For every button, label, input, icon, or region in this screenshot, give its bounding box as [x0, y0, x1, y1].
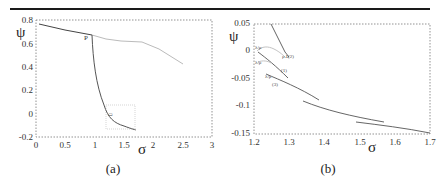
annotation-label: λ/μ	[255, 60, 262, 65]
xtick-a: 0	[34, 140, 39, 150]
steep-branch	[271, 24, 289, 57]
xlabel-a: σ	[138, 141, 146, 157]
lower-branch	[92, 35, 136, 130]
xtick-b: 1.3	[283, 137, 295, 147]
annotation-label: (2)	[288, 54, 294, 59]
ytick-b: 0	[246, 45, 251, 55]
xtick-a: 0.5	[59, 140, 71, 150]
ylabel-a: ψ	[16, 24, 26, 40]
xtick-b: 1.2	[248, 137, 259, 147]
ytick-a: 0.6	[22, 39, 34, 49]
xtick-a: 3	[210, 140, 215, 150]
xtick-a: 1	[93, 140, 98, 150]
xtick-a: 2.5	[177, 140, 189, 150]
xtick-a: 2	[151, 140, 156, 150]
ytick-b: -0.1	[236, 100, 250, 110]
panel-caption-a: (a)	[106, 161, 120, 176]
xlabel-b: σ	[368, 139, 376, 155]
plot-frame-a	[36, 20, 212, 137]
plot-frame-b	[254, 24, 430, 134]
annotation-label: λ/μ	[265, 74, 272, 79]
ytick-b: 0.05	[234, 18, 250, 28]
xtick-b: 1.5	[354, 137, 366, 147]
upper-branch-light	[92, 35, 183, 64]
figure: 0.8 0.6 0.4 0.2 0 -0.2 0 0.5 1 1.5 2 2.5…	[0, 0, 442, 182]
xtick-a: 1.5	[118, 140, 130, 150]
annotation-label: (1)	[281, 68, 287, 73]
long-branch-1	[266, 74, 319, 100]
ytick-a: -0.2	[19, 132, 33, 142]
xtick-b: 1.7	[424, 137, 436, 147]
ytick-a: 0.4	[22, 62, 34, 72]
long-branch-2	[303, 101, 384, 122]
panel-b: 0.05 0 -0.05 -0.1 -0.15 1.2 1.3 1.4 1.5 …	[229, 18, 436, 155]
inset-marker: ▭	[108, 112, 113, 117]
ytick-a: 0.2	[22, 85, 33, 95]
annotation-label: (3)	[272, 82, 278, 87]
ytick-b: -0.05	[231, 73, 250, 83]
xtick-b: 1.6	[389, 137, 401, 147]
ylabel-b: ψ	[229, 28, 239, 44]
annotation-label: λ/μ	[255, 45, 262, 50]
long-branch-3	[356, 122, 430, 133]
point-label-p: P	[84, 34, 88, 42]
panel-a: 0.8 0.6 0.4 0.2 0 -0.2 0 0.5 1 1.5 2 2.5…	[16, 15, 215, 157]
xtick-b: 1.4	[318, 137, 330, 147]
panel-caption-b: (b)	[320, 161, 335, 176]
ytick-a: 0	[29, 109, 34, 119]
